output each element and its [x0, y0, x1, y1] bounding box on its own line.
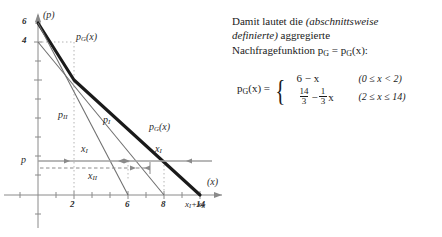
y-tick-label-6: 6 — [22, 17, 27, 26]
y-axis-label: (p) — [43, 10, 55, 20]
xI-right-sub: I — [159, 147, 161, 154]
x-axis-arrow — [214, 192, 222, 198]
formula-lhs: pG(x) = — [237, 82, 273, 96]
fraction-1-3-numerator: 1 — [319, 87, 328, 96]
fraction-1-3-denominator: 3 — [319, 96, 328, 106]
x-tick-label-2: 2 — [70, 200, 75, 209]
x-tick-label-14: 14 — [196, 200, 205, 209]
demand-curve-pI — [38, 23, 128, 195]
explanation-line-3c: (x): — [352, 44, 368, 56]
xII-label: xII — [88, 171, 97, 182]
pG-upper-label: pG(x) — [76, 32, 97, 43]
explanation-line-2: definierte) aggregierte — [232, 28, 440, 42]
formula-cases: 6 − x (0 ≤ x < 2) 14 3 − 1 3 x (2 ≤ x ≤ — [288, 72, 405, 106]
x-axis-label: (x) — [207, 177, 218, 187]
formula-case-2-expr: 14 3 − 1 3 x — [288, 87, 358, 106]
y-axis-arrow — [35, 13, 41, 22]
explanation-line-3b: = p — [329, 44, 346, 56]
x-tick-sum-sub-a: I — [189, 203, 191, 209]
pG-lower-label: pG(x) — [149, 122, 170, 133]
x-tick-label-8: 8 — [161, 200, 166, 209]
formula-case-1-condition: (0 ≤ x < 2) — [358, 73, 401, 84]
fraction-1-3: 1 3 — [319, 87, 328, 106]
piecewise-formula: pG(x) = { 6 − x (0 ≤ x < 2) 14 3 − 1 3 — [237, 72, 442, 106]
formula-variable-x: x — [328, 91, 334, 103]
xI-left-sub: I — [85, 147, 87, 154]
demand-curve-pII — [38, 42, 164, 195]
pI-sub: I — [108, 118, 110, 125]
formula-case-1: 6 − x (0 ≤ x < 2) — [288, 72, 405, 84]
xI-left-label: xI — [81, 144, 88, 155]
y-tick-label-4: 4 — [22, 36, 27, 45]
explanation-text: Damit lautet die (abschnittsweise defini… — [232, 14, 440, 59]
fraction-14-3-numerator: 14 — [297, 87, 310, 96]
pII-sub: II — [63, 113, 68, 120]
fraction-14-3: 14 3 — [297, 87, 310, 106]
explanation-line-1a: Damit lautet die — [232, 15, 306, 27]
pII-label: pII — [58, 110, 68, 121]
xI-right-label: xI — [155, 144, 162, 155]
curly-brace-icon: { — [275, 76, 285, 103]
formula-equals: = — [264, 82, 270, 94]
explanation-line-2a: definierte) — [232, 29, 278, 41]
pI-label: pI — [103, 115, 110, 126]
explanation-line-3a: Nachfragefunktion p — [232, 44, 323, 56]
x-tick-label-6: 6 — [125, 200, 130, 209]
fraction-14-3-denominator: 3 — [300, 96, 309, 106]
xII-sub: II — [92, 174, 97, 181]
pG-upper-suffix: (x) — [86, 31, 97, 42]
formula-lhs-tail: (x) — [248, 82, 261, 94]
explanation-line-3: Nachfragefunktion pG = pG(x): — [232, 43, 440, 59]
formula-case-1-expr: 6 − x — [288, 72, 358, 84]
formula-case-2-condition: (2 ≤ x ≤ 14) — [358, 91, 405, 102]
formula-case-2: 14 3 − 1 3 x (2 ≤ x ≤ 14) — [288, 87, 405, 106]
pG-lower-suffix: (x) — [159, 121, 170, 132]
formula-minus-sign: − — [311, 91, 317, 103]
y-tick-label-p: p — [21, 155, 26, 165]
demand-function-chart: 6 4 p 2 6 8 xI+xII 14 (p) (x) pG(x) pG(x… — [0, 0, 228, 237]
explanation-line-1: Damit lautet die (abschnittsweise — [232, 14, 440, 28]
explanation-line-1b: (abschnittsweise — [306, 15, 379, 27]
explanation-line-2b: aggregierte — [278, 29, 330, 41]
